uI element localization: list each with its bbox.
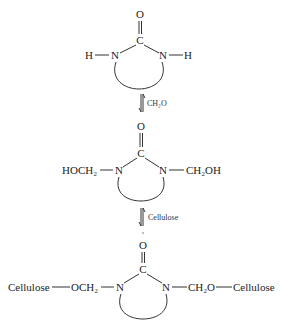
ring-arc: [115, 62, 164, 89]
nitrogen-left: N: [115, 164, 123, 176]
carbonyl-oxygen: O: [137, 120, 145, 132]
reagent-formaldehyde-label: CH₂O: [147, 99, 167, 108]
nitrogen-right: N: [162, 281, 170, 293]
carbonyl-carbon: C: [139, 263, 146, 275]
ring-arc: [118, 177, 164, 201]
dimethylol-urea-structure: O C N N HOCH₂ CH₂OH: [62, 120, 221, 201]
nitrogen-left: N: [111, 49, 119, 61]
carbonyl-carbon: C: [136, 34, 143, 46]
bond-c-n-right: [144, 45, 159, 53]
hydroxymethyl-left: HOCH₂: [62, 164, 97, 176]
carbonyl-oxygen: O: [136, 8, 144, 20]
equilibrium-arrow-2: Cellulose: [139, 208, 179, 226]
stray-dot: [142, 232, 143, 233]
nitrogen-right: N: [159, 164, 167, 176]
nitrogen-left: N: [116, 281, 124, 293]
bond-c-n-left: [123, 158, 137, 167]
cellulose-left-label: Cellulose: [8, 281, 50, 293]
equilibrium-arrow-1: CH₂O: [139, 94, 167, 112]
crosslinked-cellulose-structure: O C N N Cellulose OCH₂ CH₂O Cellulose: [8, 232, 275, 319]
reagent-cellulose-label: Cellulose: [148, 213, 179, 222]
hydroxymethyl-right: CH₂OH: [186, 164, 221, 176]
nitrogen-right: N: [159, 49, 167, 61]
hydrogen-right: H: [184, 49, 192, 61]
bond-c-n-right: [145, 158, 159, 167]
oxymethylene-right: CH₂O: [188, 281, 215, 293]
cellulose-right-label: Cellulose: [233, 281, 275, 293]
carbonyl-oxygen: O: [139, 239, 147, 251]
cyclic-urea-structure: O C N N H H: [85, 8, 192, 89]
hydrogen-left: H: [85, 49, 93, 61]
ring-arc: [120, 294, 167, 319]
bond-c-n-right: [147, 274, 162, 283]
carbonyl-carbon: C: [137, 147, 144, 159]
oxymethylene-left: OCH₂: [71, 281, 98, 293]
bond-c-n-left: [124, 274, 139, 283]
bond-c-n-left: [120, 45, 136, 53]
reaction-scheme: O C N N H H CH₂O O C N N HOCH₂ CH₂OH: [0, 0, 281, 331]
